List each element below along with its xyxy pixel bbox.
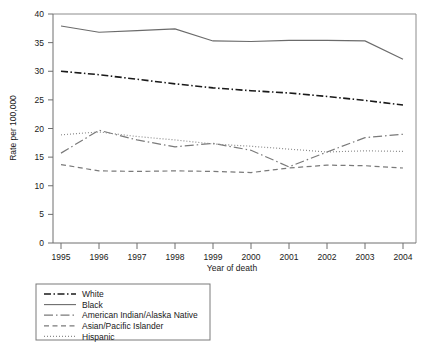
y-axis-title: Rate per 100,000 — [8, 95, 18, 161]
plot-frame — [53, 14, 416, 243]
y-axis: 0510152025303540 — [35, 9, 53, 248]
x-tick-label: 2004 — [394, 252, 413, 262]
x-tick-label: 1998 — [166, 252, 185, 262]
x-tick-label: 2001 — [280, 252, 299, 262]
legend-label-1: White — [82, 289, 104, 299]
y-tick-label: 15 — [35, 152, 45, 162]
series-line-white — [61, 71, 403, 105]
legend-label-4: Asian/Pacific Islander — [82, 321, 163, 331]
y-tick-label: 25 — [35, 95, 45, 105]
y-tick-label: 35 — [35, 38, 45, 48]
chart-figure: 0510152025303540 19951996199719981999200… — [0, 0, 432, 349]
legend-label-5: Hispanic — [82, 332, 115, 342]
line-chart: 0510152025303540 19951996199719981999200… — [0, 0, 432, 349]
x-tick-label: 1999 — [204, 252, 223, 262]
y-tick-label: 5 — [39, 209, 44, 219]
x-tick-label: 2000 — [242, 252, 261, 262]
y-tick-label: 10 — [35, 181, 45, 191]
x-axis-title: Year of death — [207, 263, 258, 273]
x-tick-label: 2003 — [356, 252, 375, 262]
y-tick-label: 0 — [39, 238, 44, 248]
legend-label-3: American Indian/Alaska Native — [82, 310, 198, 320]
x-tick-label: 1995 — [52, 252, 71, 262]
series-line-black — [61, 26, 403, 59]
legend: WhiteBlackAmerican Indian/Alaska NativeA… — [36, 284, 210, 342]
legend-label-2: Black — [82, 300, 104, 310]
x-axis: 1995199619971998199920002001200220032004 — [52, 243, 413, 262]
x-tick-label: 1996 — [90, 252, 109, 262]
x-tick-label: 1997 — [128, 252, 147, 262]
series-line-hispanic — [61, 132, 403, 152]
series-line-american-indian-alaska-native — [61, 130, 403, 167]
y-tick-label: 20 — [35, 124, 45, 134]
series-line-asian-pacific-islander — [61, 165, 403, 173]
series-lines — [61, 26, 403, 173]
x-tick-label: 2002 — [318, 252, 337, 262]
y-tick-label: 30 — [35, 66, 45, 76]
y-tick-label: 40 — [35, 9, 45, 19]
